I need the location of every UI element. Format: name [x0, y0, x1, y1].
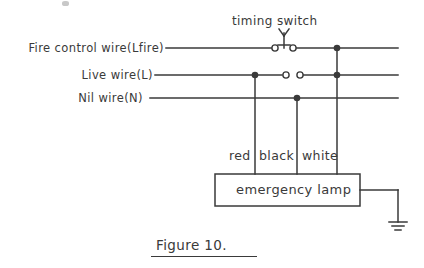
emergency-lamp-label: emergency lamp: [236, 182, 351, 197]
live-wire-label: Live wire(L): [10, 68, 153, 82]
live-switch-contact-left: [283, 72, 289, 78]
nil-wire-label: Nil wire(N): [10, 91, 143, 105]
timing-switch-contact-right: [290, 45, 296, 51]
figure-caption: Figure 10.: [156, 237, 227, 253]
figure-caption-rule: [151, 256, 257, 257]
junction-dots: [252, 45, 341, 102]
figure-canvas: timing switch Fire control wire(Lfire) L…: [0, 0, 424, 268]
junction-dot-fire-white: [334, 45, 341, 52]
live-switch-contact-right: [297, 72, 303, 78]
junction-dot-nil-black: [294, 95, 301, 102]
conductor-label-black: black: [259, 148, 294, 163]
junction-dot-live-red: [252, 72, 259, 79]
conductor-label-red: red: [229, 148, 251, 163]
conductor-label-white: white: [302, 148, 338, 163]
timing-switch-label: timing switch: [232, 14, 318, 28]
fire-control-wire-label: Fire control wire(Lfire): [10, 41, 164, 55]
junction-dot-live-white: [334, 72, 341, 79]
timing-switch-contact-left: [272, 45, 278, 51]
